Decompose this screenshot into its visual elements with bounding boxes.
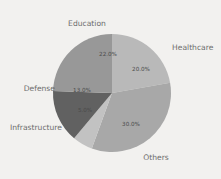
- pie-category-label-healthcare: Healthcare: [172, 43, 214, 52]
- pie-percent-label-education: 22.0%: [99, 51, 117, 57]
- pie-chart-canvas: 20.0%30.0%5.0%13.0%22.0% HealthcareOther…: [0, 0, 221, 179]
- pie-category-label-defense: Defense: [24, 84, 56, 93]
- pie-percent-label-infrastructure: 5.0%: [78, 107, 92, 113]
- pie-percent-label-others: 30.0%: [122, 121, 140, 127]
- pie-slice-healthcare: [112, 34, 170, 93]
- pie-slice-education: [53, 34, 112, 93]
- pie-category-label-infrastructure: Infrastructure: [10, 123, 62, 132]
- pie-chart-figure: 20.0%30.0%5.0%13.0%22.0% HealthcareOther…: [0, 0, 221, 179]
- pie-percent-label-healthcare: 20.0%: [132, 66, 150, 72]
- pie-percent-label-defense: 13.0%: [73, 87, 91, 93]
- pie-category-label-others: Others: [143, 153, 169, 162]
- pie-category-label-education: Education: [68, 19, 106, 28]
